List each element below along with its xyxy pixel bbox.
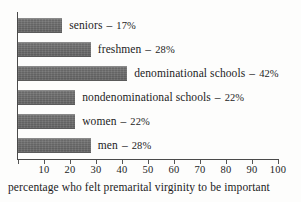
bar-rect [18,66,127,81]
bar-label: men – 28% [91,138,151,153]
x-axis-tick [18,160,19,164]
bar-category-name: men [98,139,118,151]
bar-chart-figure: 102030405060708090100 seniors – 17%fresh… [0,0,301,202]
bar-value-text: 28% [132,140,152,151]
bar-label: women – 22% [75,114,150,129]
plot-area: 102030405060708090100 seniors – 17%fresh… [0,0,301,175]
bar-category-name: women [82,115,116,127]
bar-value-text: 22% [225,92,245,103]
bar-rect [18,18,62,33]
bar-category-name: nondenominational schools [82,91,211,103]
bar-value-text: 42% [259,68,279,79]
bar-row: men – 28% [18,135,151,150]
bar-label-separator: – [245,67,259,79]
bar-label: nondenominational schools – 22% [75,90,244,105]
bar-label: denominational schools – 42% [127,66,278,81]
bar-label-separator: – [118,139,132,151]
bar-label: seniors – 17% [62,18,136,33]
x-axis-tick-label: 100 [263,163,293,176]
bar-label-separator: – [117,115,131,127]
bar-row: women – 22% [18,111,150,126]
bar-rect [18,42,91,57]
chart-caption: percentage who felt premarital virginity… [8,180,298,195]
bar-value-text: 17% [116,20,136,31]
bar-label-separator: – [141,43,155,55]
bar-rect [18,114,75,129]
bar-row: nondenominational schools – 22% [18,87,244,102]
bar-category-name: denominational schools [134,67,245,79]
bar-label-separator: – [102,19,116,31]
bar-rect [18,138,91,153]
bar-label: freshmen – 28% [91,42,175,57]
bar-rect [18,90,75,105]
bar-category-name: seniors [69,19,102,31]
bar-category-name: freshmen [98,43,142,55]
bar-row: freshmen – 28% [18,39,175,54]
bar-row: seniors – 17% [18,15,136,30]
bar-value-text: 28% [155,44,175,55]
bar-row: denominational schools – 42% [18,63,279,78]
bar-value-text: 22% [130,116,150,127]
bar-label-separator: – [211,91,225,103]
